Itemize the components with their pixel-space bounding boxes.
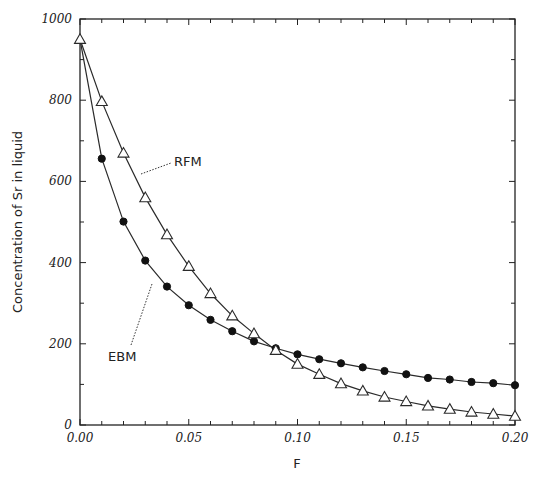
ebm-marker-circle xyxy=(381,367,388,374)
y-tick-label: 600 xyxy=(49,174,72,188)
ebm-marker-circle xyxy=(163,283,170,290)
rfm-marker-triangle xyxy=(336,378,347,388)
ebm-marker-circle xyxy=(120,218,127,225)
ebm-leader-line xyxy=(131,284,152,345)
y-tick-label: 1000 xyxy=(41,12,72,26)
ebm-marker-circle xyxy=(207,316,214,323)
ebm-marker-circle xyxy=(250,338,257,345)
x-tick-label: 0.20 xyxy=(502,431,529,445)
x-tick-label: 0.10 xyxy=(284,431,311,445)
ebm-label: EBM xyxy=(108,349,136,364)
x-tick-label: 0.00 xyxy=(67,431,94,445)
ebm-marker-circle xyxy=(316,356,323,363)
rfm-marker-triangle xyxy=(140,192,151,202)
rfm-marker-triangle xyxy=(314,369,325,379)
rfm-label: RFM xyxy=(174,154,202,169)
y-tick-label: 400 xyxy=(48,256,72,270)
chart: 0.000.050.100.150.20 02004006008001000 F… xyxy=(0,0,541,484)
series-group xyxy=(75,34,521,420)
rfm-marker-triangle xyxy=(183,261,194,271)
ebm-marker-circle xyxy=(98,155,105,162)
x-tick-labels: 0.000.050.100.150.20 xyxy=(67,431,529,445)
ebm-marker-circle xyxy=(337,360,344,367)
y-tick-label: 0 xyxy=(64,418,72,432)
rfm-marker-triangle xyxy=(162,229,173,239)
ebm-marker-circle xyxy=(403,371,410,378)
rfm-marker-triangle xyxy=(75,34,86,44)
ebm-line xyxy=(80,39,515,385)
ebm-marker-circle xyxy=(359,364,366,371)
ebm-marker-circle xyxy=(468,378,475,385)
x-tick-label: 0.15 xyxy=(393,431,420,445)
rfm-marker-triangle xyxy=(249,328,260,338)
ebm-marker-circle xyxy=(185,302,192,309)
ebm-marker-circle xyxy=(511,382,518,389)
ebm-marker-circle xyxy=(142,257,149,264)
ebm-marker-circle xyxy=(446,376,453,383)
ebm-marker-circle xyxy=(229,328,236,335)
rfm-marker-triangle xyxy=(118,148,129,158)
y-axis-title: Concentration of Sr in liquid xyxy=(10,131,25,313)
y-tick-label: 200 xyxy=(48,337,72,351)
rfm-marker-triangle xyxy=(292,359,303,369)
y-tick-label: 800 xyxy=(49,93,72,107)
rfm-leader-line xyxy=(141,163,171,174)
x-axis-title: F xyxy=(293,456,300,471)
ebm-marker-circle xyxy=(490,380,497,387)
ebm-marker-circle xyxy=(424,374,431,381)
ebm-marker-circle xyxy=(294,351,301,358)
x-tick-label: 0.05 xyxy=(175,431,202,445)
y-tick-labels: 02004006008001000 xyxy=(41,12,72,432)
rfm-marker-triangle xyxy=(96,96,107,106)
